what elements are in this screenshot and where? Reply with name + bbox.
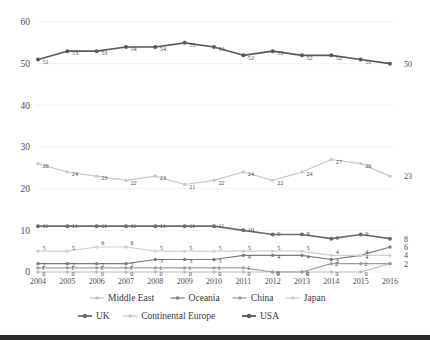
data-point xyxy=(124,262,127,265)
legend-swatch-marker xyxy=(83,314,87,318)
data-label: 5 xyxy=(277,244,280,251)
line-chart: 0102030405060 00000000000022223334443411… xyxy=(0,0,430,340)
legend-item-uk[interactable]: UK xyxy=(78,311,110,321)
data-label: 1 xyxy=(159,264,162,271)
data-label: 3 xyxy=(189,257,192,264)
data-label: 26 xyxy=(365,162,371,169)
data-label: 21 xyxy=(189,183,195,190)
data-label: 9 xyxy=(277,230,280,237)
data-point xyxy=(36,58,40,62)
data-point xyxy=(359,233,363,237)
y-axis-tick-label: 50 xyxy=(21,59,31,69)
data-label: 4 xyxy=(336,248,339,255)
data-point xyxy=(388,254,391,257)
data-label: 11 xyxy=(219,222,225,229)
data-point xyxy=(183,266,186,269)
data-label: 52 xyxy=(248,54,254,61)
data-point xyxy=(66,249,69,252)
data-point xyxy=(300,170,303,173)
data-label: 9 xyxy=(365,230,368,237)
data-point xyxy=(300,254,303,257)
data-point xyxy=(124,224,128,228)
data-point xyxy=(212,270,215,273)
x-axis-tick-label: 2008 xyxy=(147,277,163,286)
legend-item-middle-east[interactable]: Middle East xyxy=(90,293,155,303)
data-point xyxy=(36,266,39,269)
x-axis-tick-label: 2013 xyxy=(294,277,310,286)
data-point xyxy=(95,262,98,265)
legend-label: China xyxy=(251,293,274,303)
data-label: 54 xyxy=(219,45,225,52)
legend-item-japan[interactable]: Japan xyxy=(286,293,326,303)
legend-item-usa[interactable]: USA xyxy=(242,311,279,321)
chart-canvas: 0102030405060 00000000000022223334443411… xyxy=(0,0,430,340)
data-label: 23 xyxy=(101,174,107,181)
data-label: 5 xyxy=(160,244,163,251)
data-label: 1 xyxy=(100,264,103,271)
data-label: 22 xyxy=(277,179,283,186)
data-point xyxy=(212,179,215,182)
data-point xyxy=(95,174,98,177)
data-point xyxy=(359,270,362,273)
x-axis-tick-label: 2009 xyxy=(177,277,193,286)
data-point xyxy=(212,45,216,49)
data-point xyxy=(36,262,39,265)
data-point xyxy=(388,245,391,248)
data-point xyxy=(95,270,98,273)
data-label: 1 xyxy=(218,264,221,271)
x-axis-tick-label: 2012 xyxy=(265,277,281,286)
data-point xyxy=(212,258,215,261)
legend-item-china[interactable]: China xyxy=(233,293,274,303)
x-axis-tick-label: 2014 xyxy=(323,277,339,286)
data-label: 0 xyxy=(276,269,279,276)
y-axis-tick-label: 40 xyxy=(21,101,31,111)
data-point xyxy=(330,254,333,257)
data-label: 4 xyxy=(365,248,368,255)
data-label: 51 xyxy=(365,58,371,65)
data-point xyxy=(65,49,69,53)
data-point xyxy=(183,183,186,186)
x-axis-tick-label: 2005 xyxy=(59,277,75,286)
legend-item-oceania[interactable]: Oceania xyxy=(171,293,221,303)
x-axis-tick-label: 2011 xyxy=(235,277,251,286)
data-label: 9 xyxy=(307,230,310,237)
data-point xyxy=(271,249,274,252)
data-point xyxy=(36,162,39,165)
y-axis-tick-label: 60 xyxy=(21,17,31,27)
data-point xyxy=(36,224,40,228)
data-point xyxy=(242,254,245,257)
footer-rule xyxy=(0,335,430,340)
data-point xyxy=(124,245,127,248)
data-label: 11 xyxy=(101,222,107,229)
data-point xyxy=(36,270,39,273)
data-point xyxy=(330,270,333,273)
legend-swatch-marker xyxy=(128,314,132,318)
data-point xyxy=(271,49,275,53)
data-label: 5 xyxy=(189,244,192,251)
data-point xyxy=(359,254,362,257)
series-end-label: 2 xyxy=(404,260,408,269)
data-label: 53 xyxy=(72,49,78,56)
legend-label: Middle East xyxy=(108,293,155,303)
data-point xyxy=(95,266,98,269)
legend-label: Oceania xyxy=(189,293,221,303)
data-point xyxy=(329,53,333,57)
data-point xyxy=(36,249,39,252)
data-label: 6 xyxy=(131,239,134,246)
y-axis-tick-label: 0 xyxy=(25,267,30,277)
data-label: 27 xyxy=(336,158,342,165)
data-label: 5 xyxy=(72,244,75,251)
data-labels-layer: 0000000000002222333444341111111100225566… xyxy=(42,41,372,277)
data-point xyxy=(271,254,274,257)
data-point xyxy=(330,258,333,261)
data-point xyxy=(241,228,245,232)
legend-swatch-marker xyxy=(247,314,251,318)
data-point xyxy=(124,179,127,182)
y-axis-tick-label: 10 xyxy=(21,226,31,236)
data-point xyxy=(329,237,333,241)
data-label: 5 xyxy=(219,244,222,251)
legend-item-continental-europe[interactable]: Continental Europe xyxy=(123,311,215,321)
data-point xyxy=(124,266,127,269)
data-label: 54 xyxy=(131,45,137,52)
data-point xyxy=(95,224,99,228)
